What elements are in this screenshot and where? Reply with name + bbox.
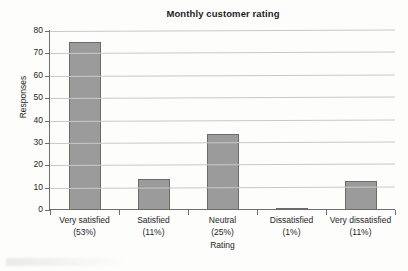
x-category-name: Neutral: [209, 215, 236, 225]
x-category-name: Very dissatisfied: [330, 215, 391, 225]
scan-artifact: [6, 258, 126, 266]
chart-title: Monthly customer rating: [50, 8, 396, 19]
x-category-name: Dissatisfied: [270, 215, 313, 225]
bar-chart: Monthly customer rating Responses 010203…: [0, 0, 408, 271]
y-tick-label: 60: [20, 70, 43, 80]
y-tick: [45, 121, 50, 122]
y-tick-label: 50: [20, 92, 43, 102]
x-category-name: Satisfied: [137, 215, 170, 225]
y-tick-label: 10: [20, 182, 43, 192]
y-tick-label: 80: [20, 25, 43, 35]
y-tick-label: 40: [20, 115, 43, 125]
plot-inner: [50, 31, 395, 210]
y-tick: [45, 98, 50, 99]
bar: [69, 42, 101, 210]
bar: [207, 134, 239, 210]
y-tick: [45, 76, 50, 77]
y-tick: [45, 188, 50, 189]
bar: [345, 181, 377, 210]
x-category-percent: (11%): [316, 227, 406, 239]
x-axis-title: Rating: [50, 240, 395, 250]
x-category-name: Very satisfied: [59, 215, 110, 225]
y-tick-label: 0: [20, 204, 43, 214]
plot-area: [50, 31, 395, 210]
y-tick: [45, 165, 50, 166]
x-category-label: Very dissatisfied(11%): [316, 215, 406, 238]
y-tick-label: 20: [20, 159, 43, 169]
y-tick-label: 30: [20, 137, 43, 147]
y-tick: [45, 53, 50, 54]
y-tick: [45, 31, 50, 32]
y-tick: [45, 143, 50, 144]
y-tick-label: 70: [20, 47, 43, 57]
bar: [138, 179, 170, 210]
bar: [276, 208, 308, 210]
